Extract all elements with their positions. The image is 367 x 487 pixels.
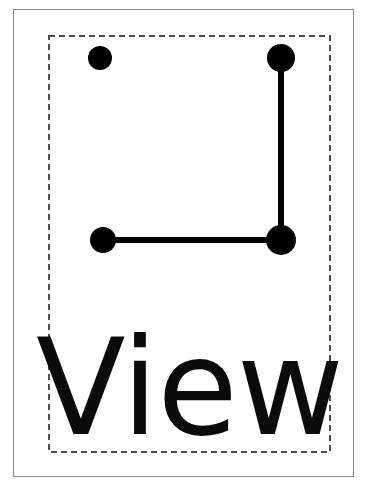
gesture-card-screen: View	[0, 0, 367, 487]
caption-label: View	[36, 321, 343, 455]
caption: View	[48, 330, 331, 445]
